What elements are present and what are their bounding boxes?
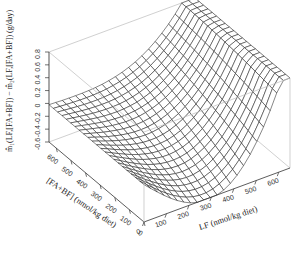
tick-label: -0.4 bbox=[34, 125, 41, 137]
tick-label: -0.6 bbox=[34, 138, 41, 150]
tick-label: 100 bbox=[154, 218, 167, 228]
tick-label: 600 bbox=[46, 153, 60, 165]
tick-label: 400 bbox=[75, 178, 89, 190]
tick-label: 0.8 bbox=[34, 49, 41, 59]
tick-label: 0.6 bbox=[34, 62, 41, 72]
tick-label: 400 bbox=[221, 193, 234, 203]
tick-label: 100 bbox=[119, 214, 133, 226]
tick-label: -0.2 bbox=[34, 112, 41, 124]
z-axis-title: m̂₁(LF,[FA+BF]) − m̂₂(LF,[FA+BF]) (g/day… bbox=[5, 9, 14, 152]
tick-label: 200 bbox=[177, 210, 190, 220]
tick-label: 300 bbox=[199, 202, 212, 212]
tick-label: 0 bbox=[34, 103, 41, 107]
surface-plot: 01002003004005006000100200300400500600-0… bbox=[0, 0, 307, 255]
tick-label: 500 bbox=[244, 185, 257, 195]
tick-label: 0.4 bbox=[34, 75, 41, 85]
tick-label: 300 bbox=[90, 190, 104, 202]
tick-label: 600 bbox=[266, 177, 279, 187]
tick-label: 0.2 bbox=[34, 88, 41, 98]
tick-label: 500 bbox=[61, 165, 75, 177]
